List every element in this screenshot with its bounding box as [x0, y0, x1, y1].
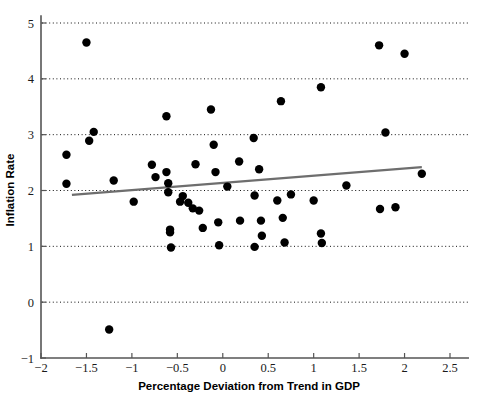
y-tick-label: 0 — [28, 296, 34, 310]
x-axis-title: Percentage Deviation from Trend in GDP — [138, 380, 360, 392]
data-point — [250, 243, 258, 251]
data-point — [257, 216, 265, 224]
data-point — [381, 128, 389, 136]
x-tick-label: 1.5 — [351, 361, 367, 375]
x-tick-label: 0.5 — [260, 361, 276, 375]
data-point — [277, 97, 285, 105]
data-point — [162, 168, 170, 176]
data-point — [164, 188, 172, 196]
data-point — [400, 50, 408, 58]
x-tick-label: −2 — [34, 361, 47, 375]
gridlines-group — [42, 23, 468, 302]
data-point — [249, 134, 257, 142]
data-point — [164, 179, 172, 187]
data-point — [110, 176, 118, 184]
data-point — [418, 170, 426, 178]
x-tick-label: 1 — [311, 361, 317, 375]
scatter-plot-figure: −2−1.5−1−0.500.511.522.5 −1012345 Percen… — [0, 0, 478, 403]
x-tick-label: 0 — [220, 361, 226, 375]
data-point — [90, 128, 98, 136]
data-point — [199, 224, 207, 232]
trendline-group — [72, 167, 422, 195]
data-point — [85, 137, 93, 145]
data-point — [105, 325, 113, 333]
y-tick-label: 1 — [28, 240, 34, 254]
data-point — [214, 218, 222, 226]
axes-group — [41, 16, 468, 358]
data-point — [223, 182, 231, 190]
data-point — [162, 112, 170, 120]
x-tick-label: −1 — [125, 361, 138, 375]
data-point — [318, 239, 326, 247]
data-point — [148, 161, 156, 169]
data-point — [235, 157, 243, 165]
y-tick-label: 4 — [28, 72, 35, 86]
data-point — [179, 192, 187, 200]
data-point — [250, 191, 258, 199]
data-point — [375, 41, 383, 49]
data-point — [130, 197, 138, 205]
data-point — [209, 141, 217, 149]
x-tick-label: 2.5 — [442, 361, 458, 375]
data-point — [211, 168, 219, 176]
tick-marks-group — [41, 23, 450, 358]
data-point — [191, 160, 199, 168]
data-point — [207, 105, 215, 113]
plot-canvas: −2−1.5−1−0.500.511.522.5 −1012345 Percen… — [0, 0, 478, 403]
data-point — [258, 232, 266, 240]
x-tick-label: 2 — [401, 361, 407, 375]
data-point — [62, 151, 70, 159]
data-point — [279, 214, 287, 222]
y-tick-label: 2 — [28, 184, 34, 198]
y-tick-label: 3 — [28, 128, 34, 142]
data-point — [273, 196, 281, 204]
data-points-group — [62, 38, 426, 333]
data-point — [309, 196, 317, 204]
data-point — [342, 181, 350, 189]
data-point — [166, 228, 174, 236]
data-point — [151, 173, 159, 181]
data-point — [287, 190, 295, 198]
data-point — [215, 241, 223, 249]
x-tick-label: −0.5 — [166, 361, 189, 375]
x-tick-labels-group: −2−1.5−1−0.500.511.522.5 — [34, 361, 457, 375]
data-point — [317, 83, 325, 91]
data-point — [62, 180, 70, 188]
data-point — [280, 238, 288, 246]
y-axis-title: Inflation Rate — [4, 154, 16, 227]
data-point — [82, 38, 90, 46]
y-tick-label: −1 — [21, 352, 34, 366]
y-tick-label: 5 — [28, 17, 34, 31]
data-point — [376, 205, 384, 213]
data-point — [255, 165, 263, 173]
trend-line — [72, 167, 422, 195]
data-point — [195, 206, 203, 214]
x-tick-label: −1.5 — [75, 361, 98, 375]
data-point — [167, 243, 175, 251]
data-point — [317, 229, 325, 237]
data-point — [236, 216, 244, 224]
data-point — [391, 203, 399, 211]
y-tick-labels-group: −1012345 — [21, 17, 35, 366]
